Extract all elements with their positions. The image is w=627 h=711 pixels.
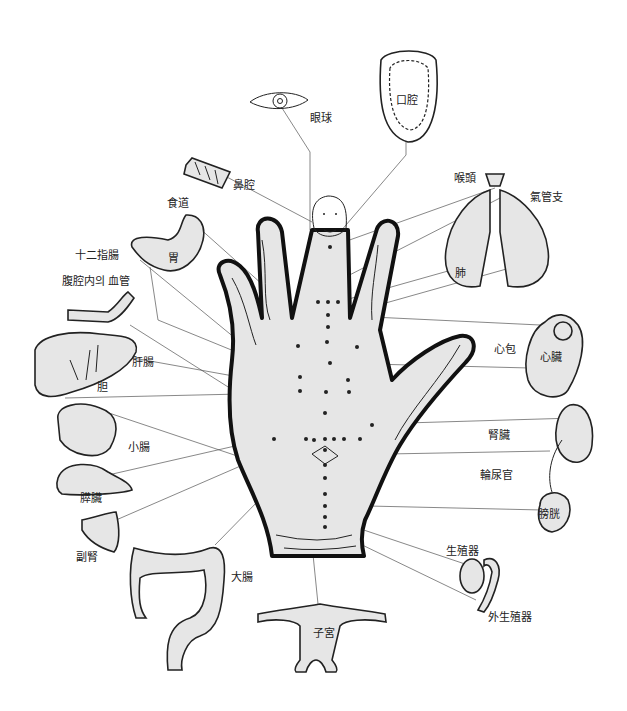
adrenal-illustration — [82, 512, 119, 552]
vessel-illustration — [68, 292, 134, 322]
label-large-intestine: 大腸 — [231, 572, 253, 583]
label-nasal-cavity: 鼻腔 — [233, 180, 255, 191]
label-heart: 心臟 — [540, 352, 562, 363]
label-mouth: 口腔 — [396, 95, 418, 106]
nose-illustration — [184, 158, 230, 188]
label-stomach: 胃 — [168, 253, 179, 264]
label-bladder: 膀胱 — [538, 509, 560, 520]
label-pancreas: 膵臟 — [80, 493, 102, 504]
eye-illustration — [250, 93, 308, 109]
label-small-intestine: 小腸 — [128, 442, 150, 453]
label-duodenum: 十二指腸 — [75, 250, 119, 261]
label-larynx: 喉頭 — [454, 173, 476, 184]
label-gallbladder: 胆 — [97, 382, 108, 393]
label-liver: 肝腸 — [132, 357, 154, 368]
label-reproductive: 生殖器 — [446, 546, 479, 557]
label-esophagus: 食道 — [167, 198, 189, 209]
label-lung: 肺 — [455, 268, 466, 279]
label-external-genitalia: 外生殖器 — [488, 612, 532, 623]
label-kidney: 腎臟 — [488, 430, 510, 441]
label-pericardium: 心包 — [494, 344, 516, 355]
hand-reflexology-diagram — [0, 0, 627, 711]
small-intestine-illustration — [58, 404, 116, 455]
label-uterus: 子宮 — [313, 628, 335, 639]
label-abdominal-vessels: 腹腔内의 血管 — [62, 276, 131, 287]
hand — [219, 196, 474, 556]
label-eyeball: 眼球 — [310, 113, 332, 124]
liver-illustration — [35, 333, 136, 397]
reproductive-illustration — [460, 559, 499, 612]
pancreas-illustration — [57, 464, 132, 494]
large-intestine-illustration — [130, 548, 224, 670]
label-bronchus: 氣管支 — [530, 192, 563, 203]
label-ureter: 輪尿官 — [480, 470, 513, 481]
label-adrenal: 副腎 — [76, 552, 98, 563]
